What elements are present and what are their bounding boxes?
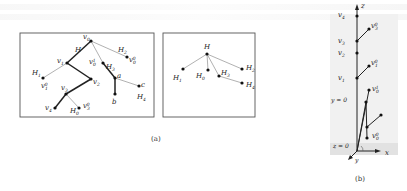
axis-y-label: y [354,156,359,164]
label-v4: v4 [45,104,52,113]
label-v0-1: v01 [89,58,96,67]
label-H3: H3 [105,63,115,72]
label-H4: H4 [136,93,146,102]
label-H: H [74,46,82,54]
label-v2: v2 [93,78,100,87]
label-v4: v4 [338,11,345,20]
label-c: c [141,81,145,89]
label-v1: v1 [57,57,64,66]
caption-b: (b) [355,175,365,183]
panel-a-right: H H1 H0 H3 H2 H4 [163,33,255,117]
label-v0-1: v01 [372,85,379,94]
label-H1: H1 [31,69,41,78]
label-H1: H1 [172,74,182,83]
label-a: a [117,72,121,80]
label-v3: v3 [61,84,68,93]
label-v1-0: v10 [371,59,378,68]
axis-x-label: x [385,149,389,157]
label-b: b [112,98,117,106]
label-v0-0: v00 [372,132,379,141]
label-v1-0: v10 [41,82,48,91]
label-v3-0: v30 [83,102,90,111]
label-v0-0: v00 [129,56,136,65]
z-axis-arrow-icon [355,4,359,10]
axis-z-label: z [360,2,365,10]
panel-a-left: v0 H v1 H1 v10 v2 v3 v4 H0 v30 v01 H3 H2… [20,33,154,117]
plane-y0-label: y = 0 [330,96,347,104]
label-v0: v0 [83,33,90,42]
caption-a: (a) [151,135,161,143]
label-root-H: H [203,43,211,51]
figure-canvas: v0 H v1 H1 v10 v2 v3 v4 H0 v30 v01 H3 H2… [0,0,407,191]
label-H2: H2 [117,46,127,55]
label-H4: H4 [245,81,255,90]
panel-b: z x y v4 v3 v2 v1 v30 [330,2,398,164]
label-H2: H2 [245,64,255,73]
plane-z0-label: z = 0 [332,142,349,149]
label-v3-0: v30 [371,22,378,31]
label-H0: H0 [195,72,205,81]
label-H3: H3 [220,69,230,78]
